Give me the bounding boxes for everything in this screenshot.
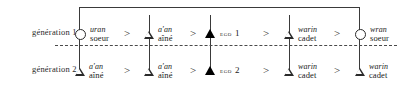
kin-term-g1-5: wran soeur xyxy=(370,26,389,43)
kin-term-french: aîné xyxy=(89,71,104,80)
person-node-g1-4: warin cadet xyxy=(284,26,317,43)
female-circle-icon xyxy=(355,29,366,40)
ego-text: EGO xyxy=(220,30,232,38)
precedence-arrow-g1-1: > xyxy=(124,27,130,39)
person-node-g2-4: warin cadet xyxy=(284,63,317,80)
person-node-g2-2: a'an aîné xyxy=(144,63,173,80)
precedence-arrow-g2-2: > xyxy=(190,64,196,76)
person-node-g2-ego: EGO 2 xyxy=(205,66,240,76)
ego-label-g2: EGO 2 xyxy=(220,66,240,76)
person-node-g1-1: uran soeur xyxy=(75,26,109,43)
male-triangle-icon xyxy=(144,31,154,39)
kin-term-g1-2: a'an aîné xyxy=(158,26,173,43)
kin-term-g1-4: warin cadet xyxy=(298,26,317,43)
ego-label-g1: EGO 1 xyxy=(220,29,240,39)
generation-2-label: génération 2 xyxy=(32,64,77,74)
kin-term-french: soeur xyxy=(370,34,389,43)
person-node-g1-5: wran soeur xyxy=(355,26,389,43)
ego-filled-triangle-icon xyxy=(205,66,215,75)
generation-1-label: génération 1 xyxy=(32,27,77,37)
kin-term-french: aîné xyxy=(158,71,173,80)
male-triangle-icon xyxy=(75,68,85,76)
generation-divider xyxy=(55,45,397,46)
person-node-g2-5: warin cadet xyxy=(355,63,388,80)
precedence-arrow-g2-4: > xyxy=(334,64,340,76)
male-triangle-icon xyxy=(355,68,365,76)
kin-term-g2-5: warin cadet xyxy=(369,63,388,80)
kin-term-g1-1: uran soeur xyxy=(90,26,109,43)
kinship-diagram: génération 1 uran soeur > a'an aîné > EG… xyxy=(0,0,401,92)
kin-term-g2-1: a'an aîné xyxy=(89,63,104,80)
kin-term-g2-4: warin cadet xyxy=(298,63,317,80)
male-triangle-icon xyxy=(284,31,294,39)
ego-number: 2 xyxy=(235,66,240,76)
kin-term-french: cadet xyxy=(298,71,317,80)
ego-filled-triangle-icon xyxy=(205,29,215,38)
ego-number: 1 xyxy=(235,29,240,39)
ego-text: EGO xyxy=(220,67,232,75)
kin-term-french: soeur xyxy=(90,34,109,43)
kin-term-g2-2: a'an aîné xyxy=(158,63,173,80)
kin-term-french: cadet xyxy=(298,34,317,43)
male-triangle-icon xyxy=(144,68,154,76)
precedence-arrow-g1-3: > xyxy=(263,27,269,39)
precedence-arrow-g1-2: > xyxy=(190,27,196,39)
precedence-arrow-g2-3: > xyxy=(263,64,269,76)
person-node-g2-1: a'an aîné xyxy=(75,63,104,80)
precedence-arrow-g1-4: > xyxy=(334,27,340,39)
sibling-bar-generation-1 xyxy=(79,7,360,15)
male-triangle-icon xyxy=(284,68,294,76)
female-circle-icon xyxy=(75,29,86,40)
kin-term-french: aîné xyxy=(158,34,173,43)
precedence-arrow-g2-1: > xyxy=(124,64,130,76)
kin-term-french: cadet xyxy=(369,71,388,80)
person-node-g1-ego: EGO 1 xyxy=(205,29,240,39)
person-node-g1-2: a'an aîné xyxy=(144,26,173,43)
